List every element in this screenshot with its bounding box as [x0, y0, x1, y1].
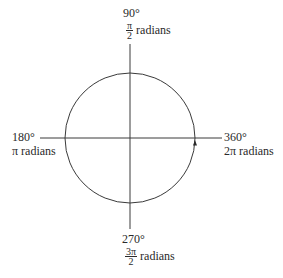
radians-word-top: radians: [136, 23, 171, 37]
label-270: 270° 3π 2 radians: [122, 233, 175, 266]
label-90: 90° π 2 radians: [123, 7, 171, 40]
degrees-270: 270°: [122, 233, 175, 246]
degrees-90: 90°: [123, 7, 171, 20]
fraction-3pi-over-2: 3π 2: [125, 247, 137, 266]
label-180: 180° π radians: [12, 131, 56, 158]
fraction-pi-over-2: π 2: [126, 21, 133, 40]
radians-word-bottom: radians: [140, 249, 175, 263]
label-360: 360° 2π radians: [224, 131, 274, 158]
degrees-360: 360°: [224, 131, 274, 144]
degrees-180: 180°: [12, 131, 56, 144]
arrow-head-icon: [193, 140, 197, 146]
radians-180: π radians: [12, 145, 56, 158]
radians-360: 2π radians: [224, 145, 274, 158]
